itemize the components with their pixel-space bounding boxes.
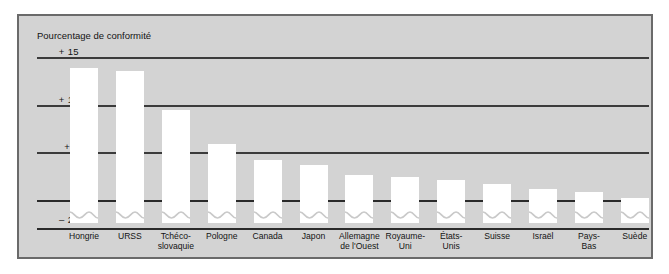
bar bbox=[345, 175, 373, 223]
figure: Pourcentage de conformité + 15+ 10+ 50– … bbox=[0, 0, 669, 274]
chart-frame: Pourcentage de conformité + 15+ 10+ 50– … bbox=[17, 14, 653, 259]
bar bbox=[391, 177, 419, 223]
bar bbox=[575, 192, 603, 223]
y-tick-label: + 15 bbox=[33, 46, 79, 57]
bar bbox=[437, 180, 465, 223]
bar bbox=[529, 189, 557, 223]
axis-title: Pourcentage de conformité bbox=[37, 30, 151, 41]
bar bbox=[70, 68, 98, 223]
bar bbox=[300, 165, 328, 223]
bar bbox=[254, 160, 282, 223]
gridline-15 bbox=[37, 57, 649, 59]
plot-area: Pourcentage de conformité + 15+ 10+ 50– … bbox=[19, 16, 651, 257]
bar bbox=[483, 184, 511, 223]
bar bbox=[621, 198, 649, 223]
bar bbox=[162, 110, 190, 223]
x-tick-label: Suède bbox=[607, 232, 651, 242]
bar bbox=[116, 71, 144, 223]
bar bbox=[208, 144, 236, 223]
x-axis-rule bbox=[37, 228, 649, 230]
